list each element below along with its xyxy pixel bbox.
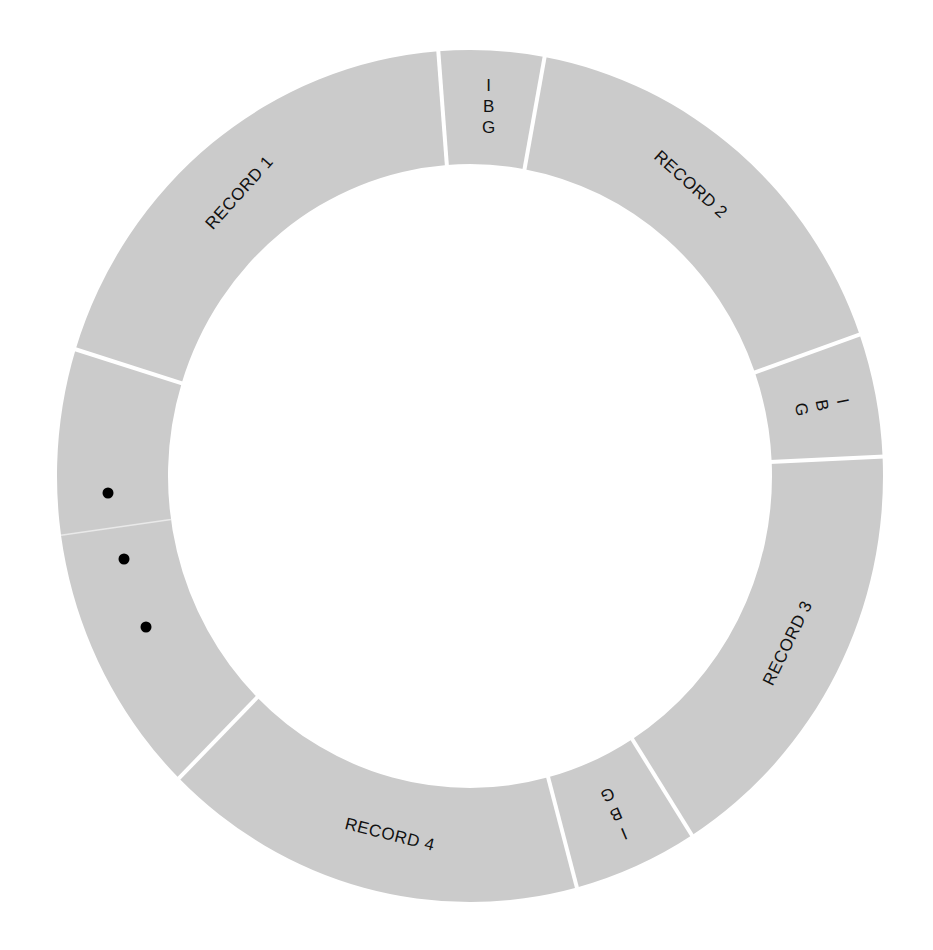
ellipsis-dot (103, 488, 114, 499)
ibg-letter: B (483, 97, 494, 116)
ring-canvas: RECORD 1IBGRECORD 2IBGRECORD 3IBGRECORD … (0, 0, 933, 950)
ellipsis-dot (141, 622, 152, 633)
ibg-letter: I (486, 76, 491, 95)
segment-continuation (57, 349, 257, 778)
segment-record-2 (525, 57, 860, 372)
segment-record-3 (632, 457, 883, 836)
circular-track-diagram: RECORD 1IBGRECORD 2IBGRECORD 3IBGRECORD … (0, 0, 933, 950)
ellipsis-dot (119, 554, 130, 565)
segment-record-1 (76, 51, 447, 383)
segment-record-4 (179, 697, 577, 902)
ibg-letter: G (482, 118, 495, 137)
